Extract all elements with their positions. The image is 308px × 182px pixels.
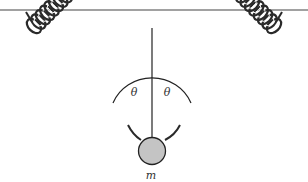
right-spring [163,0,284,140]
angle-label-left: θ [131,86,138,99]
left-spring [24,0,145,140]
mass-ball [139,138,166,165]
spring-mass-diagram: θ θ m [0,0,308,182]
mass-label: m [146,169,156,182]
angle-label-right: θ [164,86,171,99]
